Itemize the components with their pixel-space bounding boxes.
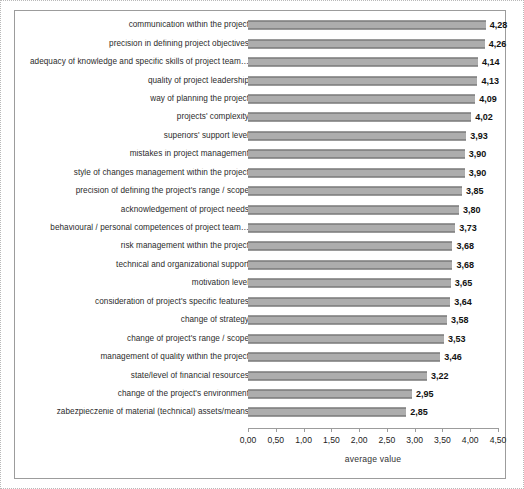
bar-rows: communication within the project4,28prec… (15, 16, 507, 422)
category-label: change of the project's environment (25, 390, 249, 399)
bar-value-label: 4,14 (478, 57, 500, 67)
bar-value-label: 3,53 (444, 334, 466, 344)
category-label: adequacy of knowledge and specific skill… (25, 58, 249, 67)
bar-row: projects' complexity4,02 (15, 108, 507, 126)
bar-chart: communication within the project4,28prec… (0, 0, 524, 489)
category-label: superiors' support level (25, 132, 249, 141)
bar-track (248, 113, 498, 122)
category-label: management of quality within the project (25, 353, 249, 362)
bar-row: change of strategy3,58 (15, 311, 507, 329)
bar-value-label: 3,22 (427, 371, 449, 381)
bar-value-label: 3,90 (465, 168, 487, 178)
category-label: quality of project leadership (25, 76, 249, 85)
bar-value-label: 3,73 (455, 223, 477, 233)
bar (248, 39, 485, 48)
bar-row: change of the project's environment2,95 (15, 385, 507, 403)
category-label: technical and organizational support (25, 261, 249, 270)
bar-row: way of planning the project4,09 (15, 90, 507, 108)
bar-row: communication within the project4,28 (15, 16, 507, 34)
x-tick-label: 0,00 (240, 435, 257, 445)
bar-value-label: 3,65 (451, 278, 473, 288)
x-tick (387, 428, 388, 432)
x-tick (331, 428, 332, 432)
bar-value-label: 4,02 (471, 112, 493, 122)
bar-value-label: 4,09 (475, 94, 497, 104)
category-label: change of project's range / scope (25, 334, 249, 343)
category-label: way of planning the project (25, 95, 249, 104)
x-tick-label: 3,50 (434, 435, 451, 445)
x-tick-label: 2,50 (379, 435, 396, 445)
bar-value-label: 2,85 (406, 407, 428, 417)
bar (248, 168, 465, 177)
bar-value-label: 3,80 (459, 205, 481, 215)
category-label: mistakes in project management (25, 150, 249, 159)
bar (248, 205, 459, 214)
bar (248, 260, 452, 269)
bar-value-label: 4,28 (486, 20, 508, 30)
x-tick-label: 0,50 (267, 435, 284, 445)
bar (248, 408, 406, 417)
x-axis-line (248, 428, 498, 429)
bar-track (248, 371, 498, 380)
category-label: acknowledgement of project needs (25, 205, 249, 214)
bar-track (248, 389, 498, 398)
bar-value-label: 3,46 (440, 352, 462, 362)
bar-track (248, 39, 498, 48)
bar-track (248, 131, 498, 140)
bar-row: technical and organizational support3,68 (15, 256, 507, 274)
category-label: behavioural / personal competences of pr… (25, 224, 249, 233)
bar-row: style of changes management within the p… (15, 164, 507, 182)
bar (248, 371, 427, 380)
category-label: style of changes management within the p… (25, 168, 249, 177)
bar-row: change of project's range / scope3,53 (15, 329, 507, 347)
category-label: precision in defining project objectives (25, 39, 249, 48)
bar-value-label: 3,90 (465, 149, 487, 159)
x-tick (359, 428, 360, 432)
bar-value-label: 3,85 (462, 186, 484, 196)
bar-row: risk management within the project3,68 (15, 237, 507, 255)
bar-row: quality of project leadership4,13 (15, 71, 507, 89)
category-label: motivation level (25, 279, 249, 288)
x-tick (304, 428, 305, 432)
x-tick (498, 428, 499, 432)
bar-value-label: 3,68 (452, 260, 474, 270)
bar (248, 131, 466, 140)
bar-row: superiors' support level3,93 (15, 127, 507, 145)
category-label: consideration of project's specific feat… (25, 297, 249, 306)
category-label: projects' complexity (25, 113, 249, 122)
x-tick (248, 428, 249, 432)
category-label: change of strategy (25, 316, 249, 325)
x-tick-label: 4,00 (462, 435, 479, 445)
bar (248, 150, 465, 159)
bar (248, 279, 451, 288)
bar-track (248, 76, 498, 85)
x-tick (442, 428, 443, 432)
bar-row: acknowledgement of project needs3,80 (15, 200, 507, 218)
bar (248, 21, 486, 30)
category-label: precision of defining the project's rang… (25, 187, 249, 196)
bar-value-label: 3,64 (450, 297, 472, 307)
chart-plot-frame: communication within the project4,28prec… (14, 10, 506, 479)
category-label: communication within the project (25, 21, 249, 30)
bar (248, 224, 455, 233)
bar-value-label: 3,93 (466, 131, 488, 141)
bar-value-label: 3,68 (452, 241, 474, 251)
bar-row: consideration of project's specific feat… (15, 293, 507, 311)
bar-value-label: 4,13 (477, 76, 499, 86)
x-tick-label: 3,00 (406, 435, 423, 445)
bar (248, 353, 440, 362)
bar-row: behavioural / personal competences of pr… (15, 219, 507, 237)
x-tick-label: 1,50 (323, 435, 340, 445)
x-tick-label: 4,50 (490, 435, 507, 445)
bar (248, 389, 412, 398)
bar-track (248, 187, 498, 196)
category-label: risk management within the project (25, 242, 249, 251)
bar-track (248, 21, 498, 30)
bar-track (248, 168, 498, 177)
bar-track (248, 94, 498, 103)
bar-value-label: 2,95 (412, 389, 434, 399)
bar-value-label: 4,26 (485, 39, 507, 49)
bar-track (248, 150, 498, 159)
bar-row: precision of defining the project's rang… (15, 182, 507, 200)
bar (248, 334, 444, 343)
